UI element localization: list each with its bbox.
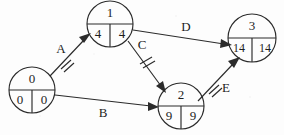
node-0-earliest-time: 0 xyxy=(17,92,24,107)
node-2-latest-time: 9 xyxy=(190,108,197,123)
edge-b-arrowhead xyxy=(148,102,159,111)
node-1-earliest-time: 4 xyxy=(95,26,102,41)
edge-d-label: D xyxy=(181,19,190,34)
edge-a-label: A xyxy=(56,41,66,56)
network-diagram: A B C D xyxy=(0,0,284,135)
edge-e: E xyxy=(198,57,240,101)
edge-a-line xyxy=(50,40,84,76)
node-3-label: 3 xyxy=(249,18,256,33)
node-3[interactable]: 3 14 14 xyxy=(228,14,276,62)
node-3-latest-time: 14 xyxy=(259,41,271,55)
node-2-label: 2 xyxy=(178,87,185,102)
diagram-canvas: A B C D xyxy=(0,0,284,135)
node-3-earliest-time: 14 xyxy=(233,41,245,55)
node-1[interactable]: 1 4 4 xyxy=(87,1,133,47)
node-0-label: 0 xyxy=(29,71,36,86)
node-2-earliest-time: 9 xyxy=(166,108,173,123)
edge-d-line xyxy=(133,30,224,44)
edge-c-tick-icon xyxy=(140,57,155,68)
edge-b-label: B xyxy=(99,105,108,120)
edge-c-label: C xyxy=(138,37,147,52)
node-1-label: 1 xyxy=(107,5,114,20)
node-2[interactable]: 2 9 9 xyxy=(158,83,204,129)
edge-d: D xyxy=(133,19,232,48)
edge-b: B xyxy=(55,95,159,120)
edge-c-arrowhead xyxy=(156,81,166,93)
node-0[interactable]: 0 0 0 xyxy=(9,67,55,113)
edge-c: C xyxy=(128,37,166,93)
edge-a: A xyxy=(50,33,91,76)
node-0-latest-time: 0 xyxy=(41,92,48,107)
edge-e-label: E xyxy=(222,80,230,95)
edge-e-arrowhead xyxy=(228,57,240,68)
node-1-latest-time: 4 xyxy=(119,26,126,41)
